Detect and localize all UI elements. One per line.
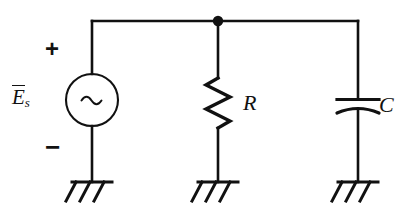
voltage-source-subscript: s: [25, 95, 30, 110]
ground-symbol-capacitor: [332, 182, 378, 201]
capacitor-label: C: [379, 94, 394, 116]
resistor-label: R: [243, 92, 256, 114]
voltage-source-label: Es: [12, 85, 30, 109]
circuit-diagram: Es R C + −: [0, 0, 410, 218]
sine-wave-icon: [82, 97, 102, 105]
circuit-schematic-svg: [0, 0, 410, 218]
polarity-plus-sign: +: [45, 37, 59, 61]
ground-symbol-resistor: [192, 182, 238, 201]
top-junction-dot: [213, 16, 223, 26]
resistor-zigzag: [206, 78, 230, 128]
voltage-source-symbol: E: [12, 85, 25, 108]
ground-symbol-source: [66, 182, 112, 201]
polarity-minus-sign: −: [45, 134, 60, 160]
